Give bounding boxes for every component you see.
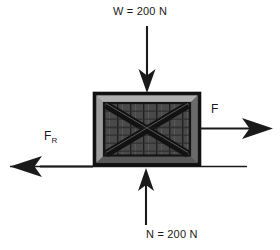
crate bbox=[93, 92, 201, 166]
friction-force-arrow bbox=[10, 156, 93, 177]
friction-force-label-subscript: R bbox=[52, 136, 58, 145]
applied-force-label: F bbox=[211, 102, 219, 116]
friction-force-label-symbol: F bbox=[44, 129, 52, 143]
normal-force-arrow bbox=[138, 168, 154, 225]
weight-force-arrow bbox=[139, 26, 156, 93]
diagram-canvas bbox=[0, 0, 280, 250]
free-body-diagram: W = 200 N N = 200 N F FR bbox=[0, 0, 280, 250]
normal-force-label: N = 200 N bbox=[146, 228, 198, 240]
applied-force-arrow bbox=[200, 118, 273, 139]
friction-force-label: FR bbox=[44, 129, 57, 145]
weight-force-label: W = 200 N bbox=[113, 5, 167, 17]
